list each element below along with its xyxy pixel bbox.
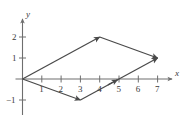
x-tick-label-7: 7 xyxy=(155,85,160,94)
y-tick-label-neg1: −1 xyxy=(6,96,16,105)
x-tick-label-3: 3 xyxy=(78,85,83,94)
x-axis-label: x xyxy=(175,69,179,78)
axis-lines xyxy=(16,19,173,115)
x-tick-label-4: 4 xyxy=(97,85,102,94)
x-tick-label-1: 1 xyxy=(39,85,44,94)
y-axis-label: y xyxy=(26,10,30,19)
y-tick-label-2: 2 xyxy=(12,33,17,42)
vector-origin-to-lower xyxy=(23,79,81,100)
y-tick-label-1: 1 xyxy=(12,54,17,63)
vector-upper-to-right xyxy=(100,37,158,58)
x-tick-label-6: 6 xyxy=(136,85,141,94)
vector-parallelogram-figure: x y 1 2 3 4 5 6 7 2 1 −1 xyxy=(0,0,185,121)
x-tick-label-5: 5 xyxy=(117,85,122,94)
vector-origin-to-upper xyxy=(23,37,100,79)
x-tick-label-2: 2 xyxy=(59,85,64,94)
